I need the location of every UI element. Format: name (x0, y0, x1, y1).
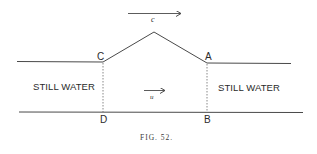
figure-canvas: c u C A D B STILL WATER STILL WATER FIG.… (0, 0, 317, 154)
diagram-lines (0, 0, 317, 154)
point-d-label: D (100, 115, 107, 125)
label-c: c (151, 16, 155, 24)
label-u: u (150, 94, 154, 101)
right-still-water-label: STILL WATER (218, 83, 280, 93)
point-b-label: B (204, 115, 211, 125)
left-still-water-label: STILL WATER (33, 82, 95, 92)
point-a-label: A (205, 52, 212, 62)
channel-bottom-line (19, 112, 303, 113)
point-c-label: C (97, 52, 104, 62)
figure-caption: FIG. 52. (140, 134, 173, 142)
water-surface-line (17, 32, 291, 64)
